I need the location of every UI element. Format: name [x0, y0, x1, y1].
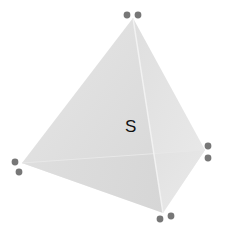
vertex-dot-icon: [205, 155, 212, 162]
vertex-dot-icon: [12, 159, 19, 166]
vertex-dot-icon: [16, 169, 23, 176]
right-vertex-dots: [205, 143, 212, 162]
vertex-dot-icon: [168, 213, 175, 220]
bottom-vertex-dots: [157, 213, 175, 223]
vertex-dot-icon: [205, 143, 212, 150]
vertex-dot-icon: [135, 12, 142, 19]
apex-dots: [124, 12, 142, 19]
vertex-dot-icon: [157, 216, 164, 223]
vertex-dot-icon: [124, 12, 131, 19]
left-vertex-dots: [12, 159, 23, 176]
face-label-s: S: [125, 118, 136, 135]
tetrahedron-diagram: [0, 0, 232, 233]
